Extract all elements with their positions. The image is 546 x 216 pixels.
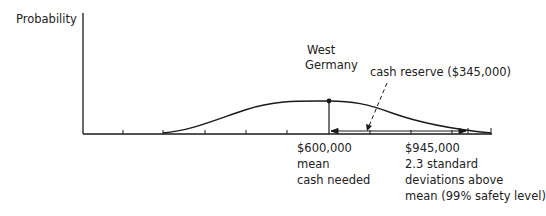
peak-label-line2: Germany xyxy=(305,58,358,73)
mean-label-text: mean xyxy=(297,157,330,172)
cash-reserve-label: cash reserve ($345,000) xyxy=(370,65,511,80)
mean-label-value: $600,000 xyxy=(297,141,352,156)
safety-label-line3: deviations above xyxy=(405,173,503,188)
peak-dot xyxy=(327,99,332,104)
safety-label-value: $945,000 xyxy=(405,141,460,156)
y-axis-label: Probability xyxy=(16,12,77,27)
cash-reserve-arrow xyxy=(331,129,466,134)
mean-label-sub: cash needed xyxy=(297,173,370,188)
peak-label-line1: West xyxy=(307,43,335,58)
safety-label-line4: mean (99% safety level) xyxy=(405,189,546,204)
normal-curve xyxy=(163,101,491,133)
safety-label-line2: 2.3 standard xyxy=(405,157,478,172)
